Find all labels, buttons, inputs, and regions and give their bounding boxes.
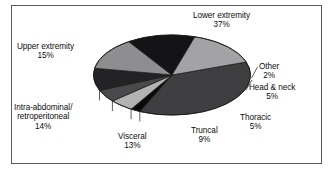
leader-line-other [252, 67, 258, 78]
pie-label-truncal-name: Truncal [191, 126, 218, 135]
pie-label-lower-extremity: Lower extremity 37% [193, 11, 250, 30]
pie-label-head-neck-name: Head & neck [249, 83, 295, 92]
pie-label-other-name: Other [259, 62, 279, 71]
pie-label-other: Other 2% [259, 62, 279, 81]
pie-label-head-neck-percent: 5% [249, 92, 295, 101]
pie-label-other-percent: 2% [259, 71, 279, 80]
pie-label-intra-abdominal-retroperitoneal: Intra-abdominal/ retroperitoneal 14% [14, 103, 72, 131]
pie-label-head-neck: Head & neck 5% [249, 83, 295, 102]
pie-chart-figure: Lower extremity 37% Other 2% Head & neck… [0, 0, 336, 177]
pie-label-thoracic-percent: 5% [240, 122, 271, 131]
pie-label-intra-abdominal-percent: 14% [14, 122, 72, 131]
pie-label-lower-extremity-name: Lower extremity [193, 11, 250, 20]
pie-label-thoracic-name: Thoracic [240, 113, 271, 122]
pie-label-intra-abdominal-line2: retroperitoneal [14, 112, 72, 121]
pie-label-thoracic: Thoracic 5% [240, 113, 271, 132]
pie-label-upper-extremity: Upper extremity 15% [17, 42, 74, 61]
pie-label-visceral: Visceral 13% [118, 132, 147, 151]
pie-label-truncal: Truncal 9% [191, 126, 218, 145]
pie-label-upper-extremity-name: Upper extremity [17, 42, 74, 51]
pie-label-truncal-percent: 9% [191, 135, 218, 144]
pie-label-visceral-name: Visceral [118, 132, 147, 141]
pie-label-visceral-percent: 13% [118, 141, 147, 150]
pie-label-upper-extremity-percent: 15% [17, 51, 74, 60]
pie-slices [93, 35, 250, 115]
pie-label-intra-abdominal-line1: Intra-abdominal/ [14, 103, 72, 112]
pie-label-lower-extremity-percent: 37% [193, 20, 250, 29]
